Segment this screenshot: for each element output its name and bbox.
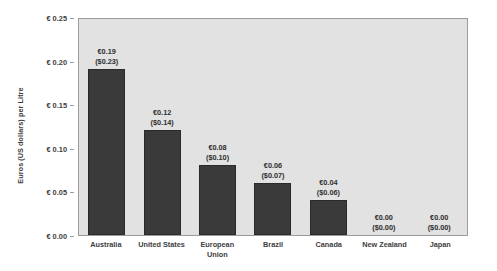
- bar-data-label-usd: ($0.10): [206, 153, 229, 163]
- bar-series: €0.19($0.23)€0.12($0.14)€0.08($0.10)€0.0…: [79, 19, 467, 235]
- bar-data-label: €0.19($0.23): [95, 47, 118, 66]
- bar-data-label-usd: ($0.06): [317, 188, 340, 198]
- bar-data-label-euro: €0.00: [428, 213, 451, 223]
- x-axis-category-label: Japan: [412, 239, 468, 271]
- bar-data-label: €0.12($0.14): [151, 108, 174, 127]
- bar-data-label-usd: ($0.00): [428, 223, 451, 233]
- bar-data-label: €0.06($0.07): [261, 161, 284, 180]
- y-axis-tick-labels: € 0.00€ 0.05€ 0.10€ 0.15€ 0.20€ 0.25: [38, 0, 74, 271]
- y-axis-tick-label: € 0.05: [46, 188, 67, 197]
- plot-area: €0.19($0.23)€0.12($0.14)€0.08($0.10)€0.0…: [78, 18, 468, 236]
- bar-data-label-euro: €0.06: [261, 161, 284, 171]
- bar-rect: [88, 69, 125, 235]
- y-axis-tick-label: € 0.20: [46, 57, 67, 66]
- bar-slot: €0.00($0.00): [356, 19, 411, 235]
- y-axis-tick-mark: [70, 149, 74, 150]
- bar-slot: €0.19($0.23): [79, 19, 134, 235]
- bar-data-label-usd: ($0.07): [261, 171, 284, 181]
- x-axis-category-labels: AustraliaUnited StatesEuropean UnionBraz…: [78, 239, 468, 271]
- bar-slot: €0.12($0.14): [134, 19, 189, 235]
- bar-data-label: €0.00($0.00): [428, 213, 451, 232]
- x-axis-category-label: Canada: [301, 239, 357, 271]
- y-axis-tick-label: € 0.00: [46, 232, 67, 241]
- bar-rect: [144, 130, 181, 235]
- bar-data-label-euro: €0.12: [151, 108, 174, 118]
- bar-data-label-usd: ($0.14): [151, 118, 174, 128]
- bar-slot: €0.00($0.00): [412, 19, 467, 235]
- bar-data-label-euro: €0.08: [206, 143, 229, 153]
- bar-rect: [199, 165, 236, 235]
- y-axis-tick-mark: [70, 105, 74, 106]
- y-axis-tick-mark: [70, 192, 74, 193]
- bar-data-label: €0.08($0.10): [206, 143, 229, 162]
- bar-data-label-euro: €0.04: [317, 178, 340, 188]
- bar-data-label-usd: ($0.00): [372, 223, 395, 233]
- y-axis-tick-mark: [70, 18, 74, 19]
- bar-rect: [254, 183, 291, 235]
- bar-data-label: €0.04($0.06): [317, 178, 340, 197]
- bar-slot: €0.06($0.07): [245, 19, 300, 235]
- bar-slot: €0.08($0.10): [190, 19, 245, 235]
- bar-data-label-usd: ($0.23): [95, 57, 118, 67]
- x-axis-category-label: United States: [134, 239, 190, 271]
- x-axis-category-label: New Zealand: [357, 239, 413, 271]
- bar-data-label-euro: €0.00: [372, 213, 395, 223]
- y-axis-tick-mark: [70, 236, 74, 237]
- bar-rect: [310, 200, 347, 235]
- bar-data-label: €0.00($0.00): [372, 213, 395, 232]
- bar-data-label-euro: €0.19: [95, 47, 118, 57]
- y-axis-tick-label: € 0.25: [46, 14, 67, 23]
- y-axis-tick-mark: [70, 62, 74, 63]
- x-axis-category-label: European Union: [189, 239, 245, 271]
- y-axis-tick-label: € 0.10: [46, 144, 67, 153]
- y-axis-tick-label: € 0.15: [46, 101, 67, 110]
- y-axis-title: Euros (US dollars) per Litre: [0, 0, 40, 271]
- bar-slot: €0.04($0.06): [301, 19, 356, 235]
- bar-chart-figure: Euros (US dollars) per Litre € 0.00€ 0.0…: [0, 0, 497, 271]
- x-axis-category-label: Australia: [78, 239, 134, 271]
- x-axis-category-label: Brazil: [245, 239, 301, 271]
